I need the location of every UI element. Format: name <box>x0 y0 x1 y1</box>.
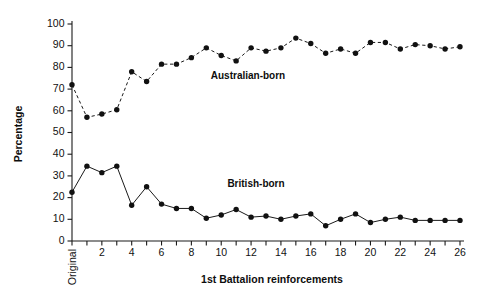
x-tick-label: 26 <box>454 246 466 258</box>
x-tick-label: 4 <box>129 246 135 258</box>
y-tick-label: 70 <box>53 82 65 94</box>
data-point <box>114 163 119 168</box>
chart-container: 0102030405060708090100 Original246810121… <box>0 0 478 301</box>
data-point <box>248 214 253 219</box>
x-tick-label: 12 <box>245 246 257 258</box>
x-tick-label: 18 <box>335 246 347 258</box>
series-layer <box>69 35 462 228</box>
data-point <box>204 45 209 50</box>
data-point <box>353 211 358 216</box>
data-point <box>144 79 149 84</box>
data-point <box>233 207 238 212</box>
x-tick-label: 24 <box>424 246 436 258</box>
data-point <box>69 189 74 194</box>
x-tick-label: 8 <box>188 246 194 258</box>
data-point <box>398 214 403 219</box>
line-chart: 0102030405060708090100 Original246810121… <box>0 0 478 301</box>
data-point <box>174 206 179 211</box>
x-tick-label: 20 <box>365 246 377 258</box>
data-point <box>413 42 418 47</box>
data-point <box>383 217 388 222</box>
x-tick-label-original: Original <box>66 249 78 285</box>
y-axis-title: Percentage <box>12 106 24 163</box>
y-tick-label: 100 <box>47 17 65 29</box>
data-point <box>174 61 179 66</box>
data-point <box>129 69 134 74</box>
y-tick-label: 20 <box>53 190 65 202</box>
data-point <box>293 213 298 218</box>
x-tick-label: 16 <box>305 246 317 258</box>
data-point <box>219 53 224 58</box>
data-point <box>159 61 164 66</box>
data-point <box>263 213 268 218</box>
data-point <box>189 55 194 60</box>
y-tick-label: 10 <box>53 212 65 224</box>
x-tick-label: 10 <box>215 246 227 258</box>
data-point <box>233 58 238 63</box>
data-point <box>442 218 447 223</box>
data-point <box>84 115 89 120</box>
data-point <box>427 218 432 223</box>
data-point <box>323 223 328 228</box>
data-point <box>129 202 134 207</box>
x-tick-label: 22 <box>394 246 406 258</box>
data-point <box>204 216 209 221</box>
data-point <box>248 45 253 50</box>
y-tick-label: 50 <box>53 125 65 137</box>
data-point <box>457 44 462 49</box>
y-tick-label: 40 <box>53 147 65 159</box>
data-point <box>278 45 283 50</box>
x-tick-label: 2 <box>99 246 105 258</box>
data-point <box>278 217 283 222</box>
data-point <box>338 217 343 222</box>
data-point <box>368 40 373 45</box>
data-point <box>368 220 373 225</box>
data-point <box>144 184 149 189</box>
data-point <box>219 212 224 217</box>
data-point <box>308 41 313 46</box>
y-axis: 0102030405060708090100 <box>47 17 72 246</box>
data-point <box>84 163 89 168</box>
data-point <box>442 46 447 51</box>
data-point <box>69 82 74 87</box>
series-label-british-born: British-born <box>227 178 284 189</box>
data-point <box>99 111 104 116</box>
data-point <box>323 51 328 56</box>
data-point <box>457 218 462 223</box>
data-point <box>189 206 194 211</box>
y-tick-label: 80 <box>53 60 65 72</box>
data-point <box>159 201 164 206</box>
data-point <box>338 46 343 51</box>
series-label-australian-born: Australian-born <box>211 70 285 81</box>
data-point <box>398 46 403 51</box>
x-tick-label: 6 <box>159 246 165 258</box>
data-point <box>114 107 119 112</box>
y-tick-label: 60 <box>53 104 65 116</box>
data-point <box>308 211 313 216</box>
data-point <box>427 43 432 48</box>
series-annotations: Australian-bornBritish-born <box>211 70 285 189</box>
data-point <box>413 218 418 223</box>
y-tick-label: 0 <box>59 234 65 246</box>
data-point <box>263 48 268 53</box>
data-point <box>293 35 298 40</box>
y-tick-label: 90 <box>53 38 65 50</box>
x-axis-title: 1st Battalion reinforcements <box>201 273 343 285</box>
data-point <box>383 40 388 45</box>
data-point <box>99 170 104 175</box>
y-tick-label: 30 <box>53 169 65 181</box>
data-point <box>353 51 358 56</box>
x-tick-label: 14 <box>275 246 287 258</box>
